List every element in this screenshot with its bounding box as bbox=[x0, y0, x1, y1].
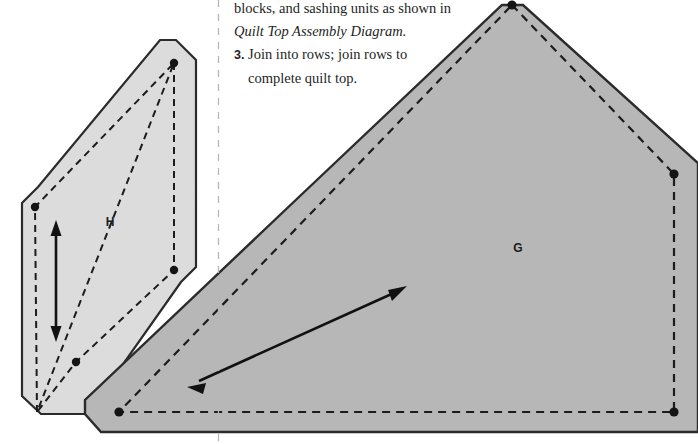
piece-g-seam-dot bbox=[669, 407, 678, 416]
piece-h-seam-dot bbox=[72, 358, 80, 366]
step-3-number: 3. bbox=[234, 48, 244, 62]
piece-g-seam-dot bbox=[114, 407, 123, 416]
piece-h-seam-dot bbox=[170, 266, 178, 274]
instruction-reference-diagram-title: Quilt Top Assembly Diagram. bbox=[234, 20, 444, 43]
instruction-line-blocks: blocks, and sashing units as shown in bbox=[234, 0, 444, 20]
instruction-text-block: blocks, and sashing units as shown in Qu… bbox=[234, 0, 444, 90]
piece-label-h: H bbox=[106, 215, 115, 229]
piece-g-seam-dot bbox=[669, 169, 678, 178]
piece-h-seam-dot bbox=[31, 203, 39, 211]
step-3-line-1: Join into rows; join rows to bbox=[248, 46, 407, 62]
step-3-line-2: complete quilt top. bbox=[234, 67, 444, 90]
piece-g-seam-dot bbox=[507, 0, 516, 9]
piece-label-g: G bbox=[513, 241, 522, 255]
pattern-page: blocks, and sashing units as shown in Qu… bbox=[0, 0, 698, 444]
instruction-step-3-continued: complete quilt top. bbox=[234, 67, 444, 90]
instruction-step-3: 3. Join into rows; join rows to bbox=[234, 43, 444, 67]
piece-h-seam-dot bbox=[170, 59, 178, 67]
